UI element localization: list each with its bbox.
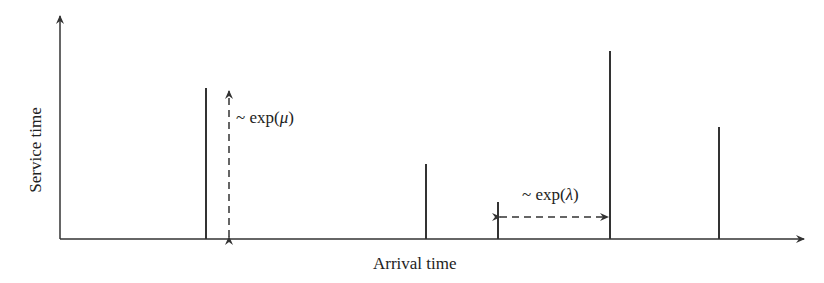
queue-diagram [0, 0, 824, 283]
lambda-prefix: ~ exp( [522, 185, 566, 204]
y-axis-label: Service time [26, 107, 46, 192]
lambda-suffix: ) [573, 185, 579, 204]
mu-symbol: μ [280, 108, 289, 127]
service-distribution-label: ~ exp(μ) [236, 108, 294, 128]
mu-prefix: ~ exp( [236, 108, 280, 127]
lambda-symbol: λ [566, 185, 573, 204]
mu-suffix: ) [288, 108, 294, 127]
x-axis-label: Arrival time [373, 254, 457, 274]
interarrival-distribution-label: ~ exp(λ) [522, 185, 579, 205]
